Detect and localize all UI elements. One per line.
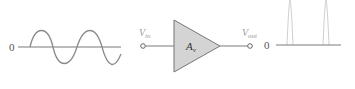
output-node [248, 44, 253, 49]
amplifier-diagram: 0 Vin Av Vout 0 [0, 0, 355, 89]
output-zero-label: 0 [264, 39, 270, 51]
output-signal: 0 [264, 0, 341, 51]
amplifier-triangle [174, 20, 220, 72]
input-signal: 0 [9, 31, 121, 65]
input-zero-label: 0 [9, 41, 15, 53]
amplifier: Av [174, 20, 248, 72]
vin-label: Vin [139, 27, 151, 40]
output-spike-1 [287, 0, 293, 45]
vout-label: Vout [242, 27, 258, 40]
input-node [141, 44, 146, 49]
output-spike-2 [323, 0, 329, 45]
output-terminal: Vout [242, 27, 258, 48]
input-terminal: Vin [139, 27, 174, 48]
